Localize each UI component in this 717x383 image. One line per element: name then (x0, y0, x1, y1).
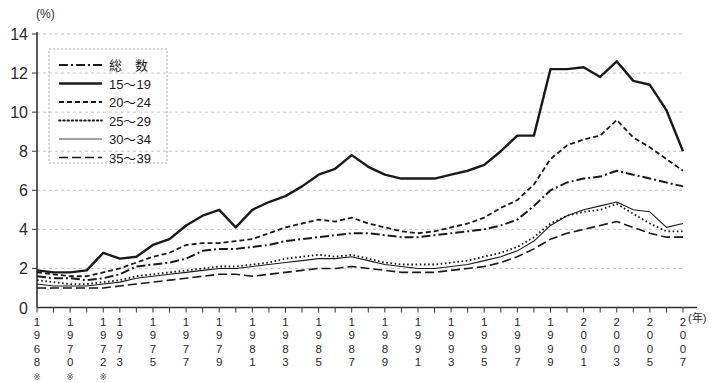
legend-label-2: 20～24 (109, 95, 151, 110)
x-tick-label-digit: 1 (547, 316, 553, 328)
x-tick-label: 1999 (547, 316, 553, 369)
x-tick-label-digit: 8 (349, 343, 355, 355)
x-tick-label-digit: 1 (382, 316, 388, 328)
x-tick-label-digit: 9 (34, 329, 40, 341)
y-tick-label: 12 (10, 65, 28, 82)
x-tick-label-digit: 5 (647, 356, 653, 368)
x-tick-label-digit: 0 (680, 329, 686, 341)
x-tick-label-digit: 1 (249, 356, 255, 368)
x-tick-label-digit: 1 (216, 316, 222, 328)
x-tick-asterisk: ※ (33, 372, 41, 382)
series-line-4 (37, 202, 683, 286)
y-tick-label: 0 (19, 300, 28, 317)
x-tick-label-digit: 9 (547, 343, 553, 355)
x-tick-label: 1975 (150, 316, 156, 369)
x-tick-label-digit: 7 (183, 343, 189, 355)
x-tick-label-digit: 9 (100, 329, 106, 341)
y-tick-labels: 02468101214 (10, 26, 37, 317)
x-tick-label-digit: 1 (315, 316, 321, 328)
x-tick-label: 2001 (580, 316, 586, 369)
x-tick-label: 1979 (216, 316, 222, 369)
y-tick-label: 4 (19, 221, 28, 238)
x-tick-label: 1981 (249, 316, 255, 369)
x-tick-label-digit: 9 (315, 329, 321, 341)
x-tick-label-digit: 9 (150, 329, 156, 341)
x-tick-label-digit: 6 (34, 343, 40, 355)
x-tick-label-digit: 5 (481, 356, 487, 368)
x-tick-label-digit: 0 (680, 343, 686, 355)
x-tick-label: 1972※ (99, 316, 107, 382)
x-tick-labels: 1968※1970※1972※1973197519771979198119831… (33, 316, 686, 382)
x-tick-label-digit: 3 (117, 356, 123, 368)
x-tick-label-digit: 9 (448, 343, 454, 355)
x-tick-label-digit: 9 (514, 343, 520, 355)
x-tick-label-digit: 8 (34, 356, 40, 368)
x-tick-label: 1987 (349, 316, 355, 369)
x-tick-label-digit: 9 (67, 329, 73, 341)
chart-container: 02468101214 1968※1970※1972※1973197519771… (0, 0, 717, 383)
x-tick-label: 1970※ (66, 316, 74, 382)
x-tick-label-digit: 1 (349, 316, 355, 328)
y-tick-label: 6 (19, 182, 28, 199)
x-tick-label: 1985 (315, 316, 321, 369)
x-tick-label-digit: 9 (448, 329, 454, 341)
y-tick-label: 14 (10, 26, 28, 43)
x-tick-label-digit: 1 (34, 316, 40, 328)
x-tick-label-digit: 2 (647, 316, 653, 328)
x-tick-label: 1968※ (33, 316, 41, 382)
x-tick-label: 1973 (117, 316, 123, 369)
x-tick-label-digit: 7 (216, 343, 222, 355)
x-tick-label-digit: 1 (448, 316, 454, 328)
x-tick-label-digit: 9 (117, 329, 123, 341)
x-tick-label-digit: 1 (415, 356, 421, 368)
x-tick-label-digit: 8 (249, 343, 255, 355)
x-tick-label-digit: 3 (448, 356, 454, 368)
x-tick-label: 1977 (183, 316, 189, 369)
x-tick-label-digit: 0 (614, 343, 620, 355)
x-tick-label-digit: 7 (183, 356, 189, 368)
x-tick-label-digit: 9 (382, 356, 388, 368)
x-tick-label-digit: 0 (614, 329, 620, 341)
x-tick-label: 2005 (647, 316, 653, 369)
x-tick-label-digit: 7 (349, 356, 355, 368)
x-tick-label-digit: 9 (547, 356, 553, 368)
chart-legend: 総 数15～1920～2425～2930～3435～39 (49, 49, 167, 166)
x-tick-label-digit: 9 (514, 329, 520, 341)
x-tick-label-digit: 0 (67, 356, 73, 368)
x-tick-label-digit: 2 (614, 316, 620, 328)
legend-label-3: 25～29 (109, 114, 151, 129)
x-tick-label-digit: 1 (100, 316, 106, 328)
x-tick-label-digit: 1 (514, 316, 520, 328)
x-tick-label-digit: 0 (647, 343, 653, 355)
x-tick-label-digit: 2 (680, 316, 686, 328)
x-tick-label-digit: 9 (216, 329, 222, 341)
x-tick-label-digit: 9 (481, 329, 487, 341)
x-tick-label-digit: 8 (282, 343, 288, 355)
x-tick-label-digit: 9 (216, 356, 222, 368)
legend-label-4: 30～34 (109, 132, 151, 147)
x-tick-label-digit: 7 (150, 343, 156, 355)
legend-label-1: 15～19 (109, 77, 151, 92)
x-tick-label: 1993 (448, 316, 454, 369)
x-tick-label: 1997 (514, 316, 520, 369)
x-tick-label-digit: 1 (117, 316, 123, 328)
y-axis-unit-label: (%) (36, 7, 55, 21)
x-tick-label-digit: 9 (481, 343, 487, 355)
x-tick-label-digit: 9 (415, 329, 421, 341)
x-tick-label-digit: 1 (67, 316, 73, 328)
x-tick-label-digit: 0 (580, 343, 586, 355)
x-tick-asterisk: ※ (66, 372, 74, 382)
x-tick-label-digit: 7 (100, 343, 106, 355)
x-tick-label-digit: 1 (580, 356, 586, 368)
x-tick-label: 1983 (282, 316, 288, 369)
x-tick-label: 2003 (614, 316, 620, 369)
x-tick-label-digit: 7 (67, 343, 73, 355)
x-tick-label-digit: 1 (282, 316, 288, 328)
x-tick-label-digit: 1 (183, 316, 189, 328)
x-tick-label-digit: 9 (382, 329, 388, 341)
series-line-1 (37, 61, 683, 272)
x-tick-label-digit: 3 (282, 356, 288, 368)
x-tick-label-digit: 1 (150, 316, 156, 328)
x-tick-label-digit: 9 (282, 329, 288, 341)
x-tick-label: 2007 (680, 316, 686, 369)
